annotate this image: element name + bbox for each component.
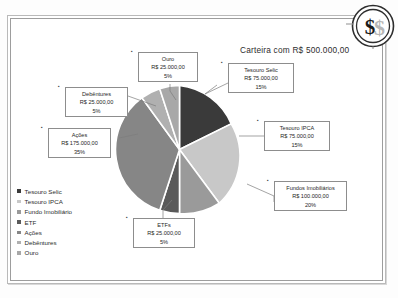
callout-tesouro-selic-value: R$ 75.000,00 — [232, 74, 290, 82]
callout-ouro-label: Ouro — [142, 55, 194, 63]
callout-etfs-label: ETFs — [137, 221, 191, 229]
callout-etfs-value: R$ 25.000,00 — [137, 229, 191, 237]
callout-fundos-imobiliarios-value: R$ 100.000,00 — [278, 192, 343, 200]
logo-dollar-ghost: $ — [374, 15, 385, 40]
callout-marker-ouro — [131, 50, 134, 53]
callout-tesouro-selic-percent: 15% — [232, 83, 290, 91]
legend-label: Ações — [25, 229, 42, 236]
callout-tesouro-selic-label: Tesouro Selic — [232, 66, 290, 74]
callout-tesouro-selic: Tesouro Selic R$ 75.000,00 15% — [228, 63, 294, 93]
callout-ouro-percent: 5% — [142, 72, 194, 80]
logo-dollar-main: $ — [365, 15, 376, 39]
callout-marker-acoes — [41, 126, 44, 129]
legend-swatch-icon — [17, 231, 21, 235]
legend-label: Ouro — [25, 249, 39, 256]
callout-marker-fundos-imobiliarios — [267, 179, 270, 182]
callout-ouro-value: R$ 25.000,00 — [142, 63, 194, 71]
callout-debentures-percent: 5% — [69, 107, 124, 115]
callout-debentures: Debêntures R$ 25.000,00 5% — [65, 87, 128, 117]
callout-tesouro-ipca-percent: 15% — [268, 141, 326, 149]
legend-swatch-icon — [17, 210, 21, 214]
callout-debentures-label: Debêntures — [69, 90, 124, 98]
callout-etfs-percent: 5% — [137, 238, 191, 246]
legend-label: Tesouro IPCA — [25, 198, 63, 205]
callout-marker-etfs — [126, 216, 129, 219]
callout-fundos-imobiliarios: Fundos Imobiliários R$ 100.000,00 20% — [274, 181, 347, 211]
legend-swatch-icon — [17, 220, 21, 224]
callout-fundos-imobiliarios-percent: 20% — [278, 201, 343, 209]
legend-label: ETF — [25, 219, 37, 226]
callout-tesouro-ipca: Tesouro IPCA R$ 75.000,00 15% — [264, 121, 330, 151]
legend-label: Tesouro Selic — [25, 188, 62, 195]
scanned-page: $ $ Carteira com R$ 500.000,00 — [0, 0, 398, 298]
callout-etfs: ETFs R$ 25.000,00 5% — [133, 218, 195, 248]
dollar-coin-logo: $ $ — [346, 3, 396, 49]
callout-acoes: Ações R$ 175.000,00 35% — [48, 128, 111, 158]
callout-tesouro-ipca-label: Tesouro IPCA — [268, 124, 326, 132]
legend-swatch-icon — [17, 241, 21, 245]
legend-item-tesouro-selic: Tesouro Selic — [17, 186, 72, 196]
callout-marker-debentures — [58, 85, 61, 88]
legend-item-acoes: Ações — [17, 227, 72, 237]
legend-label: Debêntures — [25, 239, 57, 246]
callout-marker-tesouro-ipca — [257, 119, 260, 122]
legend-label: Fundo Imobiliário — [25, 208, 72, 215]
legend-item-fundo-imobiliario: Fundo Imobiliário — [17, 207, 72, 217]
callout-acoes-percent: 35% — [52, 148, 107, 156]
legend-swatch-icon — [17, 251, 21, 255]
callout-debentures-value: R$ 25.000,00 — [69, 98, 124, 106]
callout-ouro: Ouro R$ 25.000,00 5% — [138, 52, 198, 82]
legend-item-tesouro-ipca: Tesouro IPCA — [17, 196, 72, 206]
callout-fundos-imobiliarios-label: Fundos Imobiliários — [278, 184, 343, 192]
legend-item-ouro: Ouro — [17, 248, 72, 258]
chart-legend: Tesouro Selic Tesouro IPCA Fundo Imobili… — [17, 186, 72, 258]
legend-item-debentures: Debêntures — [17, 237, 72, 247]
legend-swatch-icon — [17, 200, 21, 204]
callout-acoes-value: R$ 175.000,00 — [52, 139, 107, 147]
legend-item-etf: ETF — [17, 217, 72, 227]
callout-marker-tesouro-selic — [221, 61, 224, 64]
callout-tesouro-ipca-value: R$ 75.000,00 — [268, 132, 326, 140]
callout-acoes-label: Ações — [52, 131, 107, 139]
legend-swatch-icon — [17, 189, 21, 193]
